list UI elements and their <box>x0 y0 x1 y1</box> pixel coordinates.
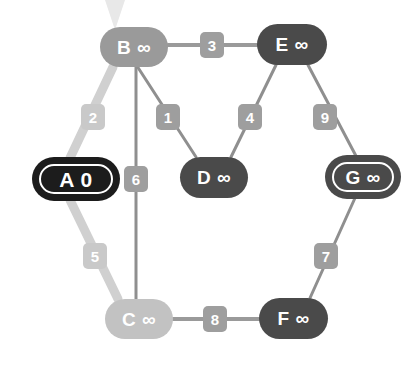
graph-node-b[interactable]: B ∞ <box>100 27 168 67</box>
node-label-e: E ∞ <box>276 35 309 54</box>
edge-weight-label: 9 <box>321 110 329 125</box>
graph-node-c[interactable]: C ∞ <box>105 299 173 339</box>
node-label-c: C ∞ <box>122 310 156 329</box>
edge-weight-label: 4 <box>246 110 254 125</box>
node-label-g: G ∞ <box>345 168 380 187</box>
edge-weight-label: 5 <box>91 249 99 264</box>
edge-weight-e-g[interactable]: 9 <box>313 104 337 130</box>
node-label-b: B ∞ <box>117 38 151 57</box>
graph-node-f[interactable]: F ∞ <box>259 298 328 339</box>
edge-weight-label: 1 <box>164 110 172 125</box>
graph-diagram-canvas: A 0B ∞C ∞D ∞E ∞F ∞G ∞ 123456789 <box>0 0 419 367</box>
edge-weight-b-c[interactable]: 6 <box>124 166 148 192</box>
graph-node-e[interactable]: E ∞ <box>257 24 327 65</box>
edge-weight-a-c[interactable]: 5 <box>83 243 107 269</box>
edge-weight-label: 3 <box>208 38 216 53</box>
node-label-a: A 0 <box>59 169 92 190</box>
edge-weight-label: 6 <box>132 172 140 187</box>
edge-weight-label: 8 <box>211 312 219 327</box>
node-label-d: D ∞ <box>197 168 231 187</box>
graph-node-d[interactable]: D ∞ <box>180 157 248 198</box>
graph-node-g[interactable]: G ∞ <box>326 156 400 198</box>
edge-weight-b-e[interactable]: 3 <box>200 32 224 58</box>
node-label-f: F ∞ <box>278 309 310 328</box>
edge-weight-d-e[interactable]: 4 <box>238 104 262 130</box>
edge-weight-label: 2 <box>89 110 97 125</box>
edge-weight-a-b[interactable]: 2 <box>81 104 105 130</box>
edge-weight-c-f[interactable]: 8 <box>203 306 227 332</box>
edge-weight-b-d[interactable]: 1 <box>156 104 180 130</box>
edge-weight-f-g[interactable]: 7 <box>314 243 338 269</box>
graph-node-a[interactable]: A 0 <box>33 158 119 200</box>
edge-weight-label: 7 <box>322 249 330 264</box>
